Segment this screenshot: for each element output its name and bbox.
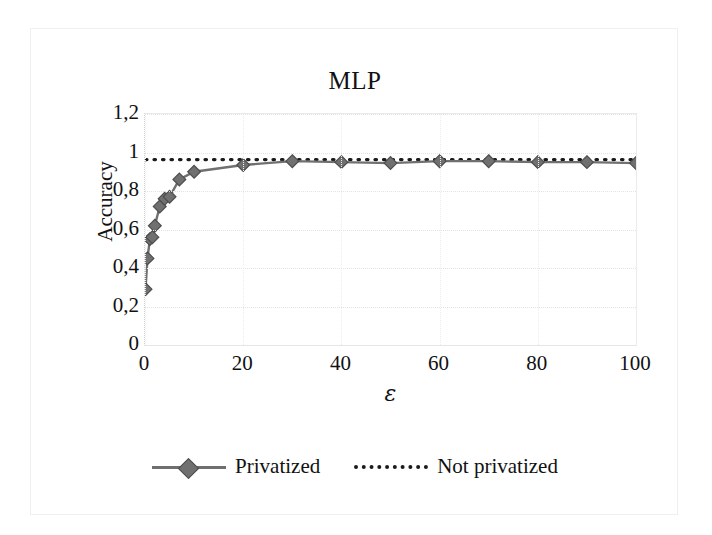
x-axis-tick-label: 40	[310, 351, 370, 376]
chart-legend: Privatized Not privatized	[31, 454, 679, 479]
x-axis-tick-label: 80	[507, 351, 567, 376]
data-point-privatized	[188, 165, 201, 178]
data-point-privatized	[581, 156, 594, 169]
gridline-horizontal	[145, 307, 636, 308]
gridline-horizontal	[145, 230, 636, 231]
plot-area	[144, 113, 637, 346]
data-point-privatized	[145, 252, 154, 265]
gridline-horizontal	[145, 345, 636, 346]
legend-label-privatized: Privatized	[235, 454, 320, 479]
series-line-privatized	[145, 161, 636, 289]
x-axis-tick-labels: 020406080100	[144, 351, 637, 379]
y-axis-tick-label: 0,8	[77, 179, 139, 200]
y-axis-tick-label: 0,2	[77, 295, 139, 316]
data-point-privatized	[145, 283, 152, 296]
x-axis-tick-label: 100	[605, 351, 665, 376]
x-axis-title: ε	[144, 381, 637, 406]
gridline-horizontal	[145, 268, 636, 269]
legend-swatch-privatized	[152, 460, 226, 474]
y-axis-tick-label: 0,4	[77, 256, 139, 277]
legend-swatch-not-privatized	[354, 465, 428, 469]
legend-label-not-privatized: Not privatized	[437, 454, 558, 479]
legend-item-not-privatized[interactable]: Not privatized	[354, 454, 558, 479]
data-point-privatized	[286, 155, 299, 168]
data-point-privatized	[173, 173, 186, 186]
gridline-horizontal	[145, 114, 636, 115]
data-point-privatized	[482, 155, 495, 168]
chart-title: MLP	[31, 67, 679, 95]
x-axis-tick-label: 0	[114, 351, 174, 376]
gridline-horizontal	[145, 191, 636, 192]
legend-item-privatized[interactable]: Privatized	[152, 454, 320, 479]
y-axis-tick-label: 0,6	[77, 218, 139, 239]
figure-frame: MLP Accuracy 00,20,40,60,811,2 020406080…	[30, 28, 678, 515]
y-axis-tick-labels: 00,20,40,60,811,2	[77, 113, 139, 346]
y-axis-tick-label: 1,2	[77, 102, 139, 123]
gridline-vertical	[636, 114, 637, 345]
x-axis-tick-label: 60	[409, 351, 469, 376]
y-axis-tick-label: 1	[77, 141, 139, 162]
x-axis-tick-label: 20	[212, 351, 272, 376]
gridline-horizontal	[145, 153, 636, 154]
